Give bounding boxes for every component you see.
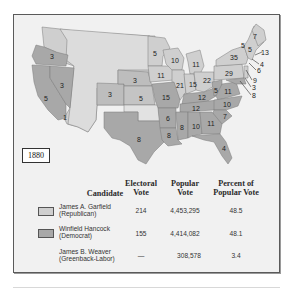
electoral-count-minnesota: 5 <box>153 50 157 57</box>
electoral-count-new-jersey: 9 <box>253 77 257 84</box>
electoral-count-indiana: 15 <box>189 81 197 88</box>
electoral-count-louisiana: 8 <box>167 132 171 139</box>
electoral-count-michigan: 11 <box>192 61 199 68</box>
year-label: 1880 <box>22 148 50 163</box>
legend-swatch-democrat <box>38 229 54 238</box>
header-popular: Popular Vote <box>163 180 207 197</box>
header-electoral: Electoral Vote <box>120 180 162 197</box>
divider <box>13 287 280 288</box>
electoral-count-north-carolina: 10 <box>223 101 231 108</box>
electoral-count-florida: 4 <box>222 145 226 152</box>
electoral-count-wisconsin: 10 <box>171 57 179 64</box>
electoral-count-kansas: 5 <box>139 95 143 102</box>
electoral-count-south-carolina: 7 <box>223 113 227 120</box>
electoral-count-maine: 7 <box>253 33 257 40</box>
percent-garfield: 48.5 <box>230 207 243 214</box>
popular-hancock: 4,414,082 <box>170 230 199 237</box>
electoral-count-nebraska: 3 <box>133 77 137 84</box>
electoral-count-massachusetts: 13 <box>261 49 269 56</box>
electoral-count-mississippi: 8 <box>180 124 184 131</box>
electoral-weaver: — <box>138 252 145 259</box>
electoral-count-georgia: 11 <box>207 120 214 127</box>
electoral-count-connecticut: 6 <box>257 67 261 74</box>
candidate-weaver: James B. Weaver (Greenback-Labor) <box>59 248 115 263</box>
electoral-count-california-rep: 1 <box>63 114 67 121</box>
electoral-count-arkansas: 6 <box>166 115 170 122</box>
electoral-count-missouri: 15 <box>162 94 170 101</box>
candidate-garfield: James A. Garfield (Republican) <box>59 203 111 218</box>
electoral-count-ohio: 22 <box>203 77 211 84</box>
electoral-count-oregon: 3 <box>50 53 54 60</box>
header-percent: Percent of Popular Vote <box>206 180 266 197</box>
electoral-count-colorado: 3 <box>108 91 112 98</box>
electoral-count-pennsylvania: 29 <box>225 70 233 77</box>
percent-weaver: 3.4 <box>231 252 240 259</box>
electoral-count-alabama: 10 <box>192 123 200 130</box>
electoral-count-maryland: 8 <box>252 92 256 99</box>
electoral-count-west-virginia: 5 <box>214 87 218 94</box>
electoral-count-virginia: 11 <box>224 88 231 95</box>
percent-hancock: 48.1 <box>230 230 243 237</box>
electoral-hancock: 155 <box>135 230 146 237</box>
us-electoral-map <box>0 0 293 289</box>
electoral-count-nevada: 3 <box>60 82 64 89</box>
electoral-count-texas: 8 <box>137 136 141 143</box>
electoral-count-delaware: 3 <box>252 84 256 91</box>
electoral-count-kentucky: 12 <box>198 94 206 101</box>
legend-swatch-republican <box>38 207 54 216</box>
electoral-count-tennessee: 12 <box>192 105 200 112</box>
electoral-count-new-york: 35 <box>230 54 238 61</box>
electoral-count-illinois: 21 <box>176 82 184 89</box>
popular-garfield: 4,453,295 <box>170 207 199 214</box>
electoral-count-california: 5 <box>44 95 48 102</box>
electoral-count-vermont: 5 <box>241 42 245 49</box>
electoral-count-new-hampshire: 5 <box>248 46 252 53</box>
candidate-hancock: Winfield Hancock (Democrat) <box>59 225 110 240</box>
popular-weaver: 308,578 <box>177 252 201 259</box>
electoral-garfield: 214 <box>135 207 146 214</box>
electoral-count-iowa: 11 <box>157 72 164 79</box>
